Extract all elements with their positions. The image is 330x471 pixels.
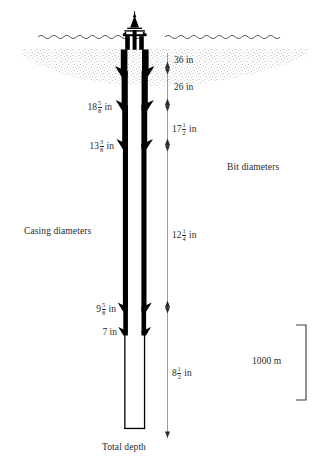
casing-diameter-label-7: 7 in: [20, 328, 117, 338]
bit-diameter-label-17-1-2: 1712 in: [172, 122, 196, 136]
bit-diameter-label-8-1-2: 812 in: [172, 366, 192, 380]
bit-diameters-heading: Bit diameters: [227, 163, 279, 173]
casing-diameter-label-18-5-8: 1858 in: [20, 100, 112, 114]
drilling-platform-derrick: [122, 11, 147, 50]
casing-diameter-label-9-5-8: 958 in: [20, 302, 116, 316]
sea-surface-wave: [38, 35, 280, 38]
scale-bar-bracket: [296, 325, 306, 400]
casing-strings: [115, 50, 154, 430]
total-depth-label: Total depth: [102, 443, 146, 453]
casing-diameter-label-13-3-8: 1338 in: [20, 139, 114, 153]
bit-diameter-scale: [165, 53, 170, 438]
scale-bar-label: 1000 m: [252, 357, 281, 367]
well-schematic-diagram: 36 in 26 in 1712 in 1214 in 812 in 1858 …: [0, 0, 330, 471]
casing-diameters-heading: Casing diameters: [24, 227, 91, 237]
bit-diameter-label-26: 26 in: [174, 83, 193, 93]
bit-diameter-label-36: 36 in: [174, 56, 193, 66]
bit-diameter-label-12-1-4: 1214 in: [172, 228, 196, 242]
